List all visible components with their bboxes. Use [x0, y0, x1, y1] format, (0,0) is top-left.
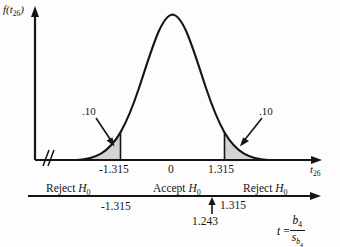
right-tail-leader-arrow	[243, 118, 262, 142]
chart-canvas	[0, 0, 340, 247]
tick-label-center: 0	[168, 164, 174, 176]
t-distribution-hypothesis-test-figure: f(t26) t26 .10 .10 -1.315 0 1.315 Reject…	[0, 0, 340, 247]
y-axis-label: f(t26)	[3, 4, 24, 18]
x-axis-label: t26	[310, 164, 321, 178]
formula-lhs: t	[277, 225, 280, 237]
y-axis-arrowhead	[31, 6, 39, 17]
tick-label-lower-critical: -1.315	[99, 164, 129, 176]
decision-region-reject-right: Reject H0	[243, 183, 288, 197]
formula-fraction: b4 sb4	[290, 215, 305, 247]
right-tail-leader-arrowhead	[240, 138, 249, 147]
decision-axis-arrowhead	[310, 192, 321, 200]
test-statistic-pointer-arrowhead	[208, 197, 215, 205]
decision-lower-critical-label: -1.315	[101, 201, 131, 213]
test-statistic-formula: t = b4 sb4	[277, 215, 305, 247]
formula-denominator: sb4	[290, 231, 305, 247]
decision-region-reject-left: Reject H0	[46, 183, 91, 197]
decision-region-accept: Accept H0	[153, 183, 201, 197]
left-tail-area-label: .10	[82, 106, 96, 117]
test-statistic-label: 1.243	[192, 216, 218, 228]
tick-label-upper-critical: 1.315	[208, 164, 234, 176]
left-tail-leader-arrow	[96, 118, 112, 142]
decision-upper-critical-label: 1.315	[220, 200, 246, 212]
formula-numerator: b4	[291, 215, 305, 230]
t-distribution-curve	[77, 15, 268, 161]
right-tail-area-label: .10	[259, 106, 273, 117]
